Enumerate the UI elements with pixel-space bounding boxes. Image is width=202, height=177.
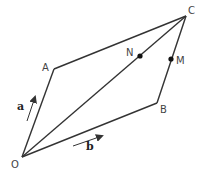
vector-diagram: O A C B N M a b [0, 0, 202, 177]
point-M-dot [168, 56, 173, 61]
label-C: C [188, 5, 195, 16]
segment-AC [54, 16, 186, 69]
label-B: B [160, 104, 167, 115]
label-O: O [11, 159, 19, 170]
label-vector-b: b [86, 140, 94, 153]
vector-a-arrow [27, 97, 35, 121]
diagonal-OC [22, 16, 186, 157]
label-vector-a: a [17, 100, 24, 113]
label-N: N [126, 47, 133, 58]
label-A: A [42, 62, 49, 73]
label-M: M [176, 55, 185, 66]
point-N-dot [137, 53, 142, 58]
